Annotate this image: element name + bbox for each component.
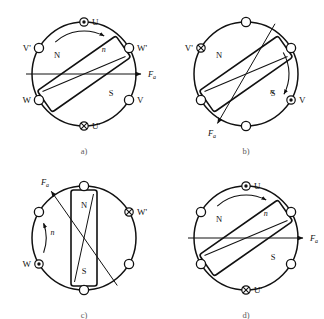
- rotation-speed-label-a: n: [102, 45, 106, 54]
- terminal-label-d-slot-u-prime: U': [254, 285, 262, 295]
- panel-caption-c: c): [81, 310, 88, 319]
- slot-empty-icon: [34, 43, 43, 52]
- slot-empty-icon: [124, 43, 133, 52]
- slot-empty-icon: [34, 95, 43, 104]
- panel-caption-a: a): [81, 146, 88, 156]
- slot-b-slot-v: V: [287, 95, 306, 105]
- slot-empty-icon: [79, 181, 88, 190]
- slot-empty-icon: [286, 43, 295, 52]
- terminal-label-b-slot-v: V: [299, 95, 306, 105]
- panel-caption-d: d): [242, 310, 249, 319]
- panel-caption-b: b): [242, 146, 249, 156]
- slot-a-slot-v: V: [124, 95, 144, 105]
- slot-c-slot-w: W: [22, 259, 43, 269]
- panel-c: NSFanW'Wc): [22, 177, 147, 319]
- slot-c-slot-ul: [34, 207, 43, 216]
- slot-d-slot-lr: [286, 259, 295, 268]
- armature-mmf-label-d: Fa: [309, 233, 318, 244]
- slot-a-slot-w-prime: W': [124, 43, 147, 53]
- slot-empty-icon: [286, 207, 295, 216]
- slot-empty-icon: [124, 95, 133, 104]
- armature-mmf-label-a: Fa: [147, 69, 156, 80]
- slot-c-slot-lr: [124, 259, 133, 268]
- terminal-label-b-slot-v-prime: V': [185, 43, 193, 53]
- pole-north-label-c: N: [81, 200, 87, 210]
- terminal-label-d-slot-u: U: [254, 181, 261, 191]
- armature-mmf-label-b: Fa: [207, 128, 216, 139]
- slot-empty-icon: [124, 259, 133, 268]
- terminal-label-c-slot-w-prime: W': [137, 207, 147, 217]
- pole-north-label-b: N: [216, 50, 222, 60]
- panels-group: NSFanUW'VU'WV'a)NSFanVV'b)NSFanW'Wc)NSFa…: [22, 17, 318, 319]
- slot-b-slot-v-prime: V': [185, 43, 205, 53]
- slot-c-slot-w-prime: W': [125, 207, 148, 217]
- terminal-label-a-slot-w-prime: W': [137, 43, 147, 53]
- terminal-label-a-slot-w: W: [22, 95, 31, 105]
- terminal-label-c-slot-w: W: [22, 259, 31, 269]
- pole-north-label-d: N: [216, 214, 222, 224]
- figure-root: NSFanUW'VU'WV'a)NSFanVV'b)NSFanW'Wc)NSFa…: [0, 0, 324, 319]
- terminal-label-a-slot-u-prime: U': [92, 121, 100, 131]
- slot-empty-icon: [286, 259, 295, 268]
- slot-d-slot-ll: [196, 259, 205, 268]
- pole-south-label-d: S: [271, 252, 276, 262]
- pole-south-label-c: S: [82, 266, 87, 276]
- rotation-speed-label-d: n: [264, 209, 268, 218]
- machine-diagram-svg: NSFanUW'VU'WV'a)NSFanVV'b)NSFanW'Wc)NSFa…: [0, 0, 324, 319]
- slot-a-slot-v-prime: V': [23, 43, 44, 53]
- slot-b-slot-top: [241, 17, 250, 26]
- slot-empty-icon: [34, 207, 43, 216]
- current-out-dot: [82, 20, 85, 23]
- terminal-label-a-slot-u: U: [92, 17, 99, 27]
- rotation-arrow-c: [44, 223, 47, 252]
- slot-b-slot-ur: [286, 43, 295, 52]
- slot-empty-icon: [196, 259, 205, 268]
- panel-d: NSFanUU'd): [188, 181, 318, 319]
- slot-a-slot-w: W: [22, 95, 43, 105]
- slot-c-slot-top: [79, 181, 88, 190]
- terminal-label-a-slot-v-prime: V': [23, 43, 31, 53]
- terminal-label-a-slot-v: V: [137, 95, 144, 105]
- slot-empty-icon: [79, 285, 88, 294]
- current-out-dot: [37, 262, 40, 265]
- pole-north-label-a: N: [54, 50, 60, 60]
- slot-b-slot-bottom: [241, 121, 250, 130]
- current-out-dot: [244, 184, 247, 187]
- slot-empty-icon: [196, 95, 205, 104]
- current-out-dot: [289, 98, 292, 101]
- slot-empty-icon: [241, 121, 250, 130]
- rotation-speed-label-b: n: [270, 87, 274, 96]
- armature-mmf-label-c: Fa: [40, 177, 49, 188]
- slot-empty-icon: [241, 17, 250, 26]
- rotation-speed-label-c: n: [50, 228, 54, 237]
- slot-d-slot-ul: [196, 207, 205, 216]
- rotation-arrow-d: [217, 195, 266, 206]
- slot-b-slot-ll: [196, 95, 205, 104]
- slot-c-slot-bottom: [79, 285, 88, 294]
- panel-a: NSFanUW'VU'WV'a): [22, 17, 156, 156]
- slot-empty-icon: [196, 207, 205, 216]
- slot-d-slot-ur: [286, 207, 295, 216]
- rotation-arrow-a: [55, 31, 104, 42]
- panel-b: NSFanVV'b): [185, 17, 306, 156]
- pole-south-label-a: S: [109, 88, 114, 98]
